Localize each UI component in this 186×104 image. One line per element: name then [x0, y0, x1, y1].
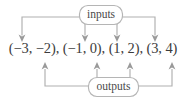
- inputs-connector-4: [122, 17, 155, 36]
- node-outputs[interactable]: outputs: [89, 78, 139, 97]
- outputs-arrowhead-3: [127, 62, 134, 70]
- node-inputs[interactable]: inputs: [80, 6, 123, 25]
- inputs-connector-1: [22, 17, 80, 36]
- outputs-connector-1: [45, 69, 89, 86]
- outputs-arrowhead-1: [42, 62, 49, 70]
- mapping-diagram: inputs outputs (−3, −2), (−1, 0), (1, 2)…: [0, 0, 186, 104]
- ordered-pairs-text: (−3, −2), (−1, 0), (1, 2), (3, 4): [0, 40, 186, 57]
- outputs-connector-4: [138, 69, 172, 86]
- outputs-arrowhead-2: [94, 62, 101, 70]
- outputs-arrowhead-4: [169, 62, 176, 70]
- outputs-label: outputs: [97, 80, 131, 93]
- inputs-label: inputs: [87, 8, 116, 21]
